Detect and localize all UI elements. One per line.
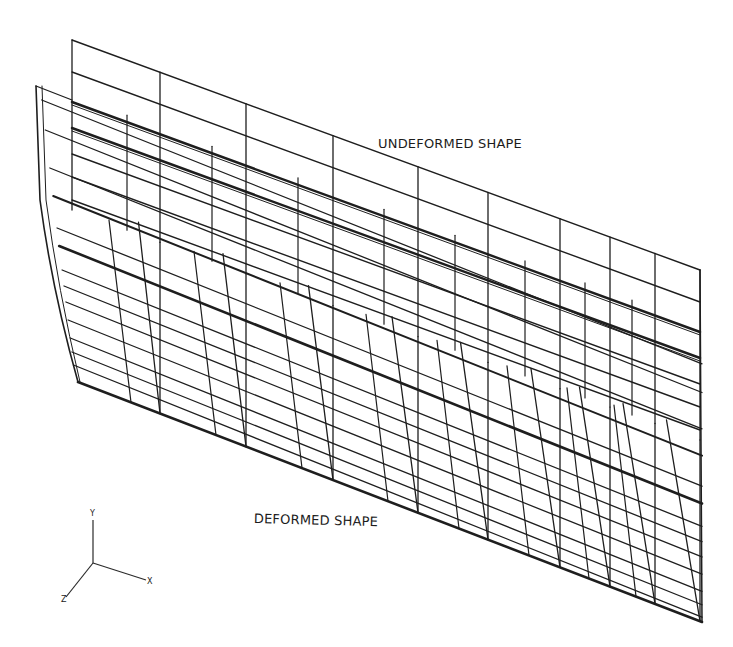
undeformed-shape-label: UNDEFORMED SHAPE [378, 136, 522, 151]
x-axis-label: X [147, 577, 152, 586]
z-axis-label: Z [61, 595, 66, 604]
deformed-shape-label: DEFORMED SHAPE [254, 511, 379, 529]
y-axis-label: Y [90, 509, 95, 518]
coordinate-triad-icon [66, 520, 146, 597]
wireframe-diagram [0, 0, 733, 647]
structure-mesh [36, 40, 702, 622]
